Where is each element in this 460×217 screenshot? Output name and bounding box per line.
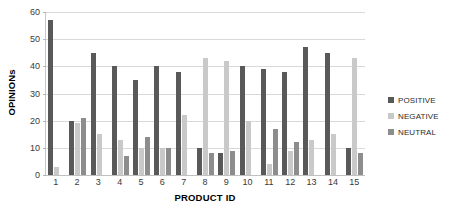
x-axis-tick-label: 14 (322, 177, 343, 191)
bar-negative (352, 58, 357, 175)
bar-negative (182, 115, 187, 175)
x-axis-tick-label: 7 (173, 177, 194, 191)
bar-group (110, 12, 131, 175)
bar-negative (54, 167, 59, 175)
bar-group (46, 12, 67, 175)
bar-group (237, 12, 258, 175)
bar-negative (288, 151, 293, 175)
legend-item: NEUTRAL (388, 124, 439, 140)
bar-negative (309, 140, 314, 175)
bar-positive (240, 66, 245, 175)
gridline (46, 175, 365, 176)
bar-positive (48, 20, 53, 175)
bar-group (152, 12, 173, 175)
bar-positive (154, 66, 159, 175)
bar-positive (261, 69, 266, 175)
legend-label: NEGATIVE (398, 112, 439, 121)
y-axis-title-label: OPINIONs (6, 69, 17, 115)
bar-positive (91, 53, 96, 175)
bar-group (67, 12, 88, 175)
y-axis-tick-label: 50 (30, 34, 40, 44)
bar-negative (331, 134, 336, 175)
x-axis-tick-label: 2 (66, 177, 87, 191)
bar-group (131, 12, 152, 175)
bar-positive (325, 53, 330, 175)
bar-positive (346, 148, 351, 175)
y-axis-title: OPINIONs (0, 0, 22, 185)
x-axis-tick-label: 1 (45, 177, 66, 191)
bar-negative (203, 58, 208, 175)
y-axis-tick-label: 0 (35, 170, 40, 180)
x-axis-title: PRODUCT ID (45, 192, 365, 203)
x-axis-tick-label: 12 (280, 177, 301, 191)
bar-negative (75, 123, 80, 175)
x-axis-tick-label: 13 (301, 177, 322, 191)
x-axis-tick-label: 11 (258, 177, 279, 191)
legend-swatch-icon (388, 97, 394, 103)
x-axis-tick-label: 3 (88, 177, 109, 191)
bar-negative (224, 61, 229, 175)
legend-swatch-icon (388, 129, 394, 135)
bar-group (174, 12, 195, 175)
y-axis-tickmark (43, 175, 46, 176)
bar-positive (69, 121, 74, 175)
bar-positive (176, 72, 181, 175)
bar-negative (160, 148, 165, 175)
x-axis-tick-label: 8 (194, 177, 215, 191)
legend-item: NEGATIVE (388, 108, 439, 124)
y-axis-tick-label: 60 (30, 7, 40, 17)
bar-negative (118, 140, 123, 175)
bar-neutral (166, 148, 171, 175)
legend-item: POSITIVE (388, 92, 439, 108)
chart-legend: POSITIVENEGATIVENEUTRAL (388, 92, 439, 140)
bar-groups (46, 12, 365, 175)
x-axis-tick-label: 6 (152, 177, 173, 191)
bar-group (259, 12, 280, 175)
bar-group (322, 12, 343, 175)
bar-neutral (273, 129, 278, 175)
plot-area (45, 12, 365, 175)
bar-group (344, 12, 365, 175)
bar-positive (218, 153, 223, 175)
y-axis-tick-label: 10 (30, 143, 40, 153)
x-axis-tick-label: 5 (130, 177, 151, 191)
bar-group (216, 12, 237, 175)
y-axis-tick-label: 40 (30, 61, 40, 71)
bar-neutral (124, 156, 129, 175)
bar-positive (303, 47, 308, 175)
bar-positive (282, 72, 287, 175)
bar-neutral (145, 137, 150, 175)
bar-neutral (294, 142, 299, 175)
y-axis-tick-labels: 0102030405060 (20, 12, 42, 175)
x-axis-tick-label: 15 (344, 177, 365, 191)
bar-negative (246, 121, 251, 175)
bar-positive (133, 80, 138, 175)
bar-group (280, 12, 301, 175)
x-axis-tick-label: 4 (109, 177, 130, 191)
bar-group (195, 12, 216, 175)
x-axis-tick-labels: 123456789101112131415 (45, 177, 365, 191)
bar-group (89, 12, 110, 175)
x-axis-tick-label: 10 (237, 177, 258, 191)
bar-negative (267, 164, 272, 175)
bar-positive (112, 66, 117, 175)
bar-negative (139, 148, 144, 175)
legend-label: NEUTRAL (398, 128, 436, 137)
legend-label: POSITIVE (398, 96, 436, 105)
bar-neutral (209, 153, 214, 175)
y-axis-tick-label: 20 (30, 116, 40, 126)
bar-neutral (81, 118, 86, 175)
legend-swatch-icon (388, 113, 394, 119)
bar-negative (97, 134, 102, 175)
y-axis-tick-label: 30 (30, 89, 40, 99)
bar-neutral (230, 151, 235, 175)
x-axis-tick-label: 9 (216, 177, 237, 191)
bar-chart: OPINIONs 0102030405060 12345678910111213… (0, 0, 460, 217)
bar-neutral (358, 153, 363, 175)
bar-group (301, 12, 322, 175)
bar-positive (197, 148, 202, 175)
